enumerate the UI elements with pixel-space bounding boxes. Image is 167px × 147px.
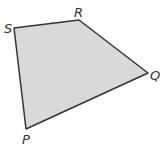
vertex-label-s: S <box>4 21 12 36</box>
vertex-label-p: P <box>22 132 30 147</box>
quadrilateral-diagram: S R Q P <box>0 0 167 147</box>
quadrilateral-pqrs <box>14 20 148 129</box>
vertex-label-r: R <box>74 5 83 20</box>
vertex-label-q: Q <box>150 68 160 83</box>
